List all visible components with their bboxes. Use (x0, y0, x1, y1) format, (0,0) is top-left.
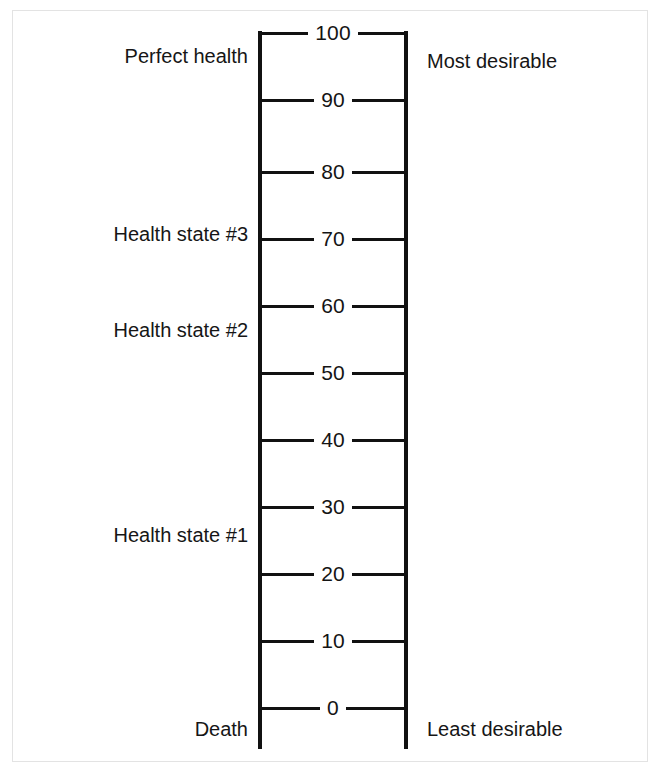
left-annotation: Health state #3 (0, 222, 248, 246)
annotation-label: Least desirable (427, 718, 563, 740)
tick-label: 60 (314, 295, 352, 316)
tick-label: 70 (314, 228, 352, 249)
tick-label: 90 (314, 89, 352, 110)
tick-segment-right (352, 305, 408, 308)
tick-segment-left (258, 640, 314, 643)
left-annotation: Death (0, 717, 248, 741)
tick-segment-right (352, 439, 408, 442)
tick-label: 30 (314, 496, 352, 517)
left-annotation: Perfect health (0, 44, 248, 68)
annotation-label: Death (195, 718, 248, 740)
vas-figure: 1009080706050403020100 Perfect healthHea… (0, 0, 664, 775)
scale-tick-20: 20 (258, 559, 408, 589)
tick-segment-left (258, 707, 320, 710)
annotation-label: Perfect health (125, 45, 248, 67)
tick-segment-left (258, 372, 314, 375)
tick-segment-right (352, 171, 408, 174)
tick-segment-right (352, 372, 408, 375)
tick-segment-left (258, 506, 314, 509)
annotation-label: Health state #3 (113, 223, 248, 245)
tick-label: 100 (308, 22, 358, 43)
left-annotation: Health state #1 (0, 523, 248, 547)
scale-tick-40: 40 (258, 425, 408, 455)
tick-segment-left (258, 32, 308, 35)
annotation-label: Health state #1 (113, 524, 248, 546)
tick-segment-left (258, 99, 314, 102)
tick-segment-left (258, 305, 314, 308)
tick-label: 40 (314, 429, 352, 450)
tick-segment-right (352, 640, 408, 643)
tick-label: 10 (314, 630, 352, 651)
scale-tick-10: 10 (258, 626, 408, 656)
tick-label: 80 (314, 161, 352, 182)
tick-label: 50 (314, 362, 352, 383)
scale-tick-60: 60 (258, 291, 408, 321)
scale-tick-50: 50 (258, 358, 408, 388)
tick-segment-left (258, 439, 314, 442)
scale-tick-90: 90 (258, 85, 408, 115)
tick-segment-left (258, 238, 314, 241)
tick-label: 0 (320, 697, 346, 718)
scale-tick-30: 30 (258, 492, 408, 522)
scale-tick-70: 70 (258, 224, 408, 254)
tick-segment-right (352, 506, 408, 509)
annotation-label: Health state #2 (113, 319, 248, 341)
tick-segment-right (352, 573, 408, 576)
tick-segment-right (352, 238, 408, 241)
left-annotation: Health state #2 (0, 318, 248, 342)
tick-segment-right (346, 707, 408, 710)
tick-segment-right (358, 32, 408, 35)
tick-segment-right (352, 99, 408, 102)
right-annotation: Most desirable (427, 49, 657, 73)
tick-segment-left (258, 171, 314, 174)
scale-tick-100: 100 (258, 18, 408, 48)
tick-label: 20 (314, 563, 352, 584)
annotation-label: Most desirable (427, 50, 557, 72)
scale-tick-80: 80 (258, 157, 408, 187)
vas-scale: 1009080706050403020100 (0, 0, 664, 775)
tick-segment-left (258, 573, 314, 576)
scale-tick-0: 0 (258, 693, 408, 723)
right-annotation: Least desirable (427, 717, 657, 741)
